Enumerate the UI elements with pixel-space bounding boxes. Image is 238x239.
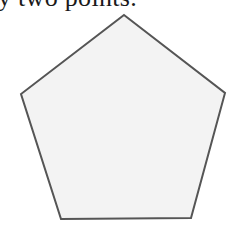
pentagon-figure xyxy=(0,0,238,239)
pentagon-shape xyxy=(21,15,225,219)
